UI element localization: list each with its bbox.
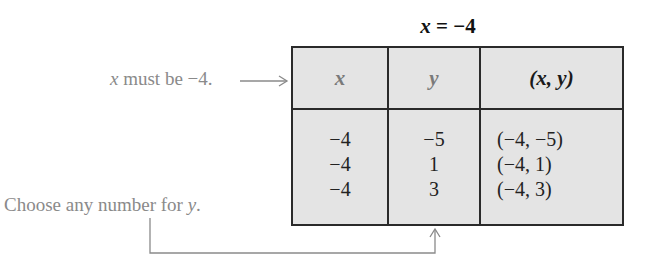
right-arrow-icon <box>240 76 287 86</box>
y-annotation-var: y <box>188 194 196 215</box>
y-annotation-end: . <box>196 194 201 215</box>
header-x: x <box>293 66 387 91</box>
column-pair-values: (−4, −5) (−4, 1) (−4, 3) <box>481 127 622 202</box>
table-cell: (−4, 3) <box>497 177 622 202</box>
y-annotation-text: Choose any number for <box>4 194 188 215</box>
column-x-values: −4 −4 −4 <box>293 127 387 202</box>
table-cell: −4 <box>293 152 387 177</box>
table-cell: −5 <box>389 127 479 152</box>
table-cell: (−4, −5) <box>497 127 622 152</box>
header-y: y <box>389 66 479 91</box>
header-divider <box>293 108 622 110</box>
table-cell: (−4, 1) <box>497 152 622 177</box>
header-xy: (x, y) <box>481 66 622 91</box>
table-cell: −4 <box>293 177 387 202</box>
column-y-values: −5 1 3 <box>389 127 479 202</box>
table-cell: 3 <box>389 177 479 202</box>
table-cell: −4 <box>293 127 387 152</box>
y-annotation: Choose any number for y. <box>4 194 201 216</box>
table-cell: 1 <box>389 152 479 177</box>
xy-table: x y (x, y) −4 −4 −4 −5 1 3 (−4, −5) (−4,… <box>291 46 624 226</box>
